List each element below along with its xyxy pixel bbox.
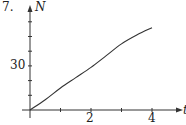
data-curve	[30, 28, 152, 110]
x-tick-label-2: 2	[86, 111, 94, 125]
x-axis-arrow-icon	[176, 108, 183, 113]
x-tick-label-4: 4	[148, 111, 156, 125]
y-tick-label-30: 30	[10, 58, 25, 72]
line-chart	[0, 0, 186, 125]
y-axis-arrow-icon	[28, 5, 33, 12]
